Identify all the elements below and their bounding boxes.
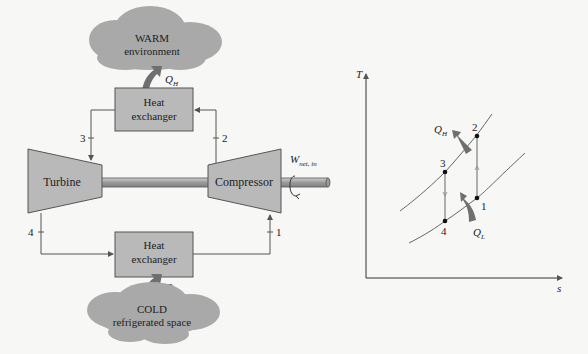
ts-q-high-arrow-icon bbox=[452, 130, 472, 154]
warm-line1: WARM bbox=[135, 32, 169, 44]
cold-line1: COLD bbox=[137, 303, 167, 315]
state-point-1 bbox=[475, 196, 480, 201]
state-3-label: 3 bbox=[80, 132, 86, 144]
ts-q-high-label: QH bbox=[434, 123, 448, 138]
state-2-label: 2 bbox=[222, 132, 228, 144]
warm-line2: environment bbox=[124, 45, 180, 57]
compressor: Compressor bbox=[208, 149, 281, 213]
heat-exchanger-top: Heat exchanger bbox=[115, 88, 193, 131]
heat-exchanger-bottom: Heat exchanger bbox=[115, 232, 193, 277]
svg-text:Heat: Heat bbox=[144, 239, 165, 251]
low-pressure-line bbox=[409, 153, 525, 243]
q-high-label: QH bbox=[165, 73, 179, 88]
ts-q-low-label: QL bbox=[473, 226, 485, 241]
cold-refrigerated-space-cloud: COLD refrigerated space bbox=[87, 282, 220, 344]
s-axis-label: s bbox=[557, 282, 561, 294]
state-point-4 bbox=[443, 219, 448, 224]
point-4-label: 4 bbox=[441, 225, 447, 237]
svg-text:exchanger: exchanger bbox=[131, 110, 177, 122]
work-net-in-label: Wnet, in bbox=[290, 153, 317, 168]
point-3-label: 3 bbox=[440, 157, 446, 169]
point-1-label: 1 bbox=[481, 200, 487, 212]
cold-line2: refrigerated space bbox=[113, 316, 192, 328]
state-point-3 bbox=[443, 170, 448, 175]
svg-text:Heat: Heat bbox=[144, 96, 165, 108]
warm-environment-cloud: WARM environment bbox=[89, 6, 222, 70]
state-4-label: 4 bbox=[28, 226, 34, 238]
state-1-label: 1 bbox=[276, 226, 282, 238]
svg-text:Turbine: Turbine bbox=[43, 175, 81, 189]
gas-refrigeration-cycle-figure: WARM environment QH Heat exchanger 3 2 4… bbox=[0, 0, 588, 354]
svg-text:exchanger: exchanger bbox=[131, 253, 177, 265]
t-axis-label: T bbox=[356, 68, 363, 80]
ts-q-low-arrow-icon bbox=[460, 192, 476, 222]
ts-diagram: T s 1 2 3 4 QH QL bbox=[356, 68, 562, 294]
svg-text:Compressor: Compressor bbox=[215, 175, 273, 189]
point-2-label: 2 bbox=[472, 121, 478, 133]
state-point-2 bbox=[475, 134, 480, 139]
